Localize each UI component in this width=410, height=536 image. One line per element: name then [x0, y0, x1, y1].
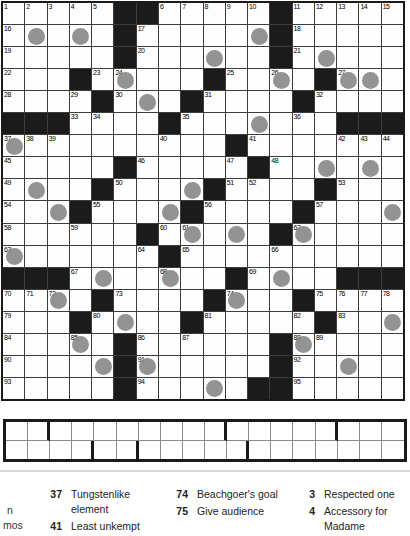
grid-cell[interactable] — [337, 378, 358, 399]
grid-cell[interactable]: 77 — [359, 290, 380, 311]
grid-cell[interactable]: 7 — [181, 3, 202, 24]
grid-cell[interactable] — [293, 157, 314, 178]
grid-cell[interactable] — [70, 378, 91, 399]
grid-cell[interactable] — [293, 69, 314, 90]
grid-cell[interactable]: 12 — [315, 3, 336, 24]
grid-cell[interactable]: 91 — [137, 356, 158, 377]
grid-cell[interactable]: 58 — [3, 224, 24, 245]
grid-cell[interactable]: 65 — [181, 246, 202, 267]
grid-cell[interactable] — [159, 179, 180, 200]
grid-cell[interactable]: 45 — [3, 157, 24, 178]
grid-cell[interactable] — [226, 378, 247, 399]
grid-cell[interactable] — [226, 224, 247, 245]
answer-cell[interactable] — [183, 422, 205, 441]
grid-cell[interactable]: 31 — [204, 91, 225, 112]
grid-cell[interactable]: 2 — [25, 3, 46, 24]
grid-cell[interactable]: 94 — [137, 378, 158, 399]
grid-cell[interactable] — [137, 113, 158, 134]
grid-cell[interactable]: 19 — [3, 47, 24, 68]
answer-cell[interactable] — [28, 441, 50, 460]
grid-cell[interactable]: 50 — [114, 179, 135, 200]
answer-cell[interactable] — [316, 422, 338, 441]
grid-cell[interactable] — [114, 135, 135, 156]
answer-cell[interactable] — [360, 422, 382, 441]
grid-cell[interactable] — [293, 179, 314, 200]
grid-cell[interactable]: 39 — [48, 135, 69, 156]
grid-cell[interactable]: 62 — [293, 224, 314, 245]
grid-cell[interactable]: 35 — [181, 113, 202, 134]
grid-cell[interactable]: 60 — [159, 224, 180, 245]
grid-cell[interactable] — [92, 268, 113, 289]
grid-cell[interactable]: 38 — [25, 135, 46, 156]
grid-cell[interactable] — [270, 91, 291, 112]
answer-cell[interactable] — [249, 422, 271, 441]
grid-cell[interactable] — [248, 224, 269, 245]
grid-cell[interactable]: 71 — [25, 290, 46, 311]
grid-cell[interactable] — [382, 246, 403, 267]
grid-cell[interactable] — [92, 135, 113, 156]
grid-cell[interactable]: 23 — [92, 69, 113, 90]
grid-cell[interactable] — [315, 135, 336, 156]
grid-cell[interactable] — [48, 47, 69, 68]
answer-cell[interactable] — [227, 441, 249, 460]
answer-cell[interactable] — [28, 422, 50, 441]
grid-cell[interactable] — [270, 290, 291, 311]
grid-cell[interactable] — [359, 91, 380, 112]
grid-cell[interactable] — [337, 157, 358, 178]
grid-cell[interactable]: 70 — [3, 290, 24, 311]
answer-cell[interactable] — [338, 441, 360, 460]
grid-cell[interactable] — [48, 69, 69, 90]
grid-cell[interactable] — [48, 356, 69, 377]
grid-cell[interactable] — [137, 135, 158, 156]
grid-cell[interactable] — [25, 246, 46, 267]
grid-cell[interactable] — [315, 113, 336, 134]
grid-cell[interactable]: 57 — [315, 201, 336, 222]
grid-cell[interactable] — [382, 334, 403, 355]
grid-cell[interactable]: 87 — [181, 334, 202, 355]
grid-cell[interactable]: 20 — [137, 47, 158, 68]
grid-cell[interactable] — [204, 47, 225, 68]
grid-cell[interactable] — [226, 25, 247, 46]
grid-cell[interactable] — [270, 312, 291, 333]
grid-cell[interactable] — [226, 312, 247, 333]
grid-cell[interactable] — [226, 91, 247, 112]
answer-cell[interactable] — [227, 422, 249, 441]
grid-cell[interactable] — [382, 378, 403, 399]
grid-cell[interactable] — [92, 356, 113, 377]
grid-cell[interactable] — [25, 157, 46, 178]
grid-cell[interactable] — [359, 179, 380, 200]
grid-cell[interactable]: 30 — [114, 91, 135, 112]
grid-cell[interactable] — [70, 356, 91, 377]
grid-cell[interactable]: 37 — [3, 135, 24, 156]
grid-cell[interactable] — [226, 113, 247, 134]
grid-cell[interactable]: 11 — [293, 3, 314, 24]
grid-cell[interactable] — [315, 268, 336, 289]
grid-cell[interactable]: 63 — [3, 246, 24, 267]
answer-cell[interactable] — [271, 422, 293, 441]
answer-cell[interactable] — [382, 441, 404, 460]
grid-cell[interactable] — [315, 157, 336, 178]
answer-cell[interactable] — [249, 441, 271, 460]
grid-cell[interactable] — [315, 47, 336, 68]
grid-cell[interactable]: 28 — [3, 91, 24, 112]
grid-cell[interactable] — [159, 157, 180, 178]
grid-cell[interactable] — [70, 290, 91, 311]
grid-cell[interactable]: 72 — [48, 290, 69, 311]
answer-cell[interactable] — [316, 441, 338, 460]
grid-cell[interactable] — [48, 378, 69, 399]
grid-cell[interactable]: 43 — [359, 135, 380, 156]
grid-cell[interactable] — [181, 25, 202, 46]
grid-cell[interactable] — [359, 312, 380, 333]
grid-cell[interactable] — [25, 47, 46, 68]
grid-cell[interactable] — [382, 201, 403, 222]
grid-cell[interactable] — [248, 47, 269, 68]
grid-cell[interactable] — [359, 201, 380, 222]
grid-cell[interactable] — [25, 201, 46, 222]
grid-cell[interactable] — [114, 113, 135, 134]
grid-cell[interactable] — [359, 25, 380, 46]
grid-cell[interactable] — [159, 290, 180, 311]
grid-cell[interactable] — [270, 135, 291, 156]
answer-cell[interactable] — [117, 422, 139, 441]
grid-cell[interactable] — [70, 157, 91, 178]
grid-cell[interactable]: 64 — [137, 246, 158, 267]
